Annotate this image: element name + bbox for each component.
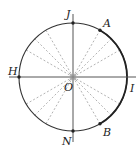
label-b: B xyxy=(102,126,111,139)
label-a: A xyxy=(102,17,111,30)
point-a xyxy=(98,29,101,32)
label-j: J xyxy=(64,8,71,21)
point-b xyxy=(98,122,101,125)
point-j xyxy=(71,21,74,24)
label-h: H xyxy=(7,65,18,78)
point-h xyxy=(17,75,20,78)
unit-circle-diagram: J A H O I B N xyxy=(0,0,139,153)
point-n xyxy=(71,129,74,132)
label-n: N xyxy=(61,135,72,148)
origin-marker xyxy=(70,74,76,80)
label-i: I xyxy=(129,82,135,95)
label-o: O xyxy=(64,81,73,94)
